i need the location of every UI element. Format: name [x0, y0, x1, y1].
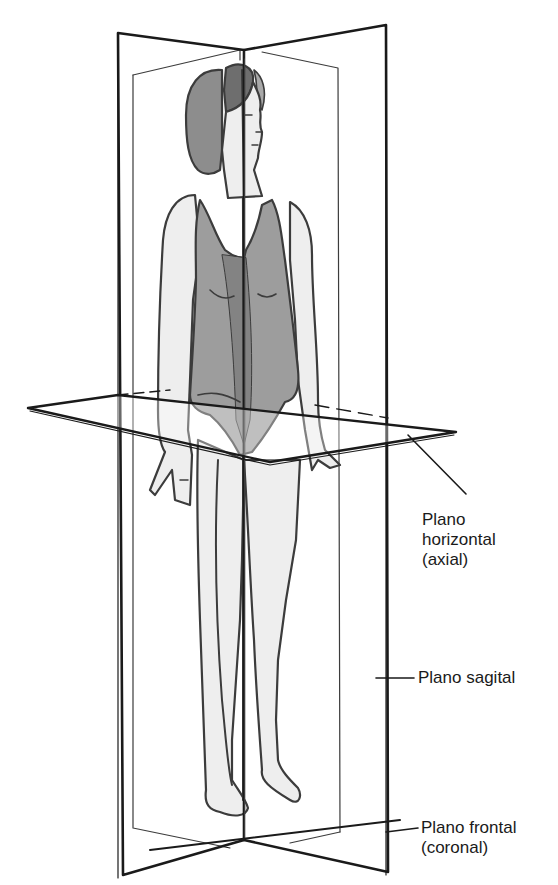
- label-frontal-line2: (coronal): [421, 838, 516, 858]
- anatomical-planes-illustration: [0, 0, 558, 885]
- leader-lines: [376, 435, 466, 832]
- label-horizontal-line1: Plano: [422, 510, 496, 530]
- label-horizontal-plane: Plano horizontal (axial): [422, 510, 496, 570]
- leader-horizontal: [408, 435, 466, 494]
- frontal-plane-frame: [118, 33, 244, 875]
- label-frontal-plane: Plano frontal (coronal): [421, 818, 516, 858]
- label-horizontal-line2: horizontal: [422, 530, 496, 550]
- label-frontal-line1: Plano frontal: [421, 818, 516, 838]
- leader-frontal: [386, 828, 418, 832]
- label-horizontal-line3: (axial): [422, 550, 496, 570]
- label-sagittal-plane: Plano sagital: [418, 668, 515, 688]
- label-sagittal-line1: Plano sagital: [418, 668, 515, 688]
